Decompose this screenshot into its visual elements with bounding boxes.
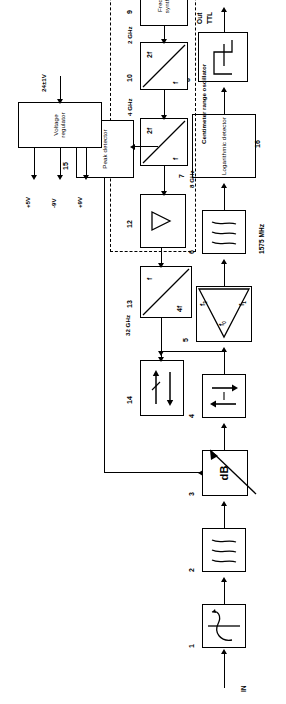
wire-7-8 <box>224 90 225 114</box>
rail-wire-2 <box>86 148 87 178</box>
circulator-icon <box>202 604 246 648</box>
wire-7-15-drop <box>134 146 158 147</box>
block-13-input-label: f <box>146 278 153 280</box>
rail-arrow-2-icon <box>83 175 89 180</box>
lo-frequency-label: 32 GHz <box>124 315 131 336</box>
wire-3-4 <box>224 426 225 450</box>
if-frequency-label: 1575 MHz <box>258 224 265 254</box>
block-14-number: 14 <box>126 396 133 404</box>
bandpass-filter-icon <box>202 210 246 254</box>
block-4-number: 4 <box>188 414 195 418</box>
wire-1-2-arrow-icon <box>221 577 227 582</box>
agc-arrow-icon <box>198 470 203 476</box>
supply-input-label: 24±1V <box>40 74 47 92</box>
block-7-label: Logarithmic detector <box>221 116 228 176</box>
wire-6-7 <box>224 186 225 210</box>
wire-13-14 <box>161 318 162 360</box>
rail-arrow-0-icon <box>31 175 37 180</box>
wire-6-7-arrow-icon <box>221 183 227 188</box>
agc-riser <box>104 472 202 473</box>
output-arrow-icon <box>221 7 227 12</box>
rail-wire-1 <box>60 148 61 178</box>
output-label-line2: TTL <box>206 12 213 24</box>
wire-4-5 <box>224 350 225 374</box>
wire-12-13-arrow-icon <box>158 263 164 268</box>
wire-13-14-arrow-icon <box>158 357 164 362</box>
agc-wire <box>104 178 105 473</box>
rail-label-2: +9V <box>76 197 83 208</box>
block-16-label: Voltage regulator <box>53 103 66 147</box>
frequency-multiplier-icon <box>140 266 192 318</box>
block-15-label: Peak detector <box>102 128 109 169</box>
block-13-multiplier[interactable] <box>140 266 192 318</box>
wire-14-to-mixer-riser <box>161 351 224 352</box>
bandpass-filter-icon <box>202 528 246 572</box>
block-1-circulator[interactable] <box>202 604 246 648</box>
block-2-bandpass-filter[interactable] <box>202 528 246 572</box>
input-label: IN <box>240 685 247 692</box>
mixer-port-f1: f1 <box>238 301 247 306</box>
rail-label-1: -9V <box>50 198 57 208</box>
wire-5-6-arrow-icon <box>221 259 227 264</box>
block-6-bandpass-filter[interactable] <box>202 210 246 254</box>
rail-wire-0 <box>34 148 35 178</box>
wire-5-6 <box>224 262 225 286</box>
supply-input-arrow-icon <box>57 99 63 104</box>
block-5-mixer[interactable] <box>196 286 252 342</box>
mixer-port-f0: f0 <box>218 321 227 326</box>
block-5-number: 5 <box>182 338 189 342</box>
block-14-directional-coupler[interactable] <box>140 360 184 416</box>
block-1-number: 1 <box>188 644 195 648</box>
block-15-number: 15 <box>62 162 69 170</box>
rail-label-0: +5V <box>24 197 31 208</box>
rail-arrow-1-icon <box>57 175 63 180</box>
isolator-amplifier-icon <box>202 374 246 418</box>
wire-7-8-arrow-icon <box>221 87 227 92</box>
group-label: Centimeter range oscillator <box>200 64 207 144</box>
block-13-output-label: 4f <box>176 306 183 312</box>
block-2-number: 2 <box>188 568 195 572</box>
mixer-icon <box>196 286 252 342</box>
output-label-line1: Out <box>196 13 203 24</box>
directional-coupler-icon <box>140 360 184 416</box>
wire-3-4-arrow-icon <box>221 423 227 428</box>
wire-7-15-stub <box>157 146 158 147</box>
wire-7-15-arrow-icon <box>130 144 135 150</box>
input-wire <box>224 653 225 688</box>
output-wire <box>224 10 225 32</box>
mixer-port-f2: f2 <box>199 301 208 306</box>
block-16-number: 16 <box>254 140 261 148</box>
wire-1-2 <box>224 580 225 604</box>
input-arrow-icon <box>221 649 227 654</box>
block-13-number: 13 <box>126 300 133 308</box>
block-16-voltage-regulator[interactable]: Voltage regulator <box>18 102 102 148</box>
block-4-isolator[interactable] <box>202 374 246 418</box>
block-diagram-canvas: IN 1 2 3 dB 4 <box>0 0 286 704</box>
